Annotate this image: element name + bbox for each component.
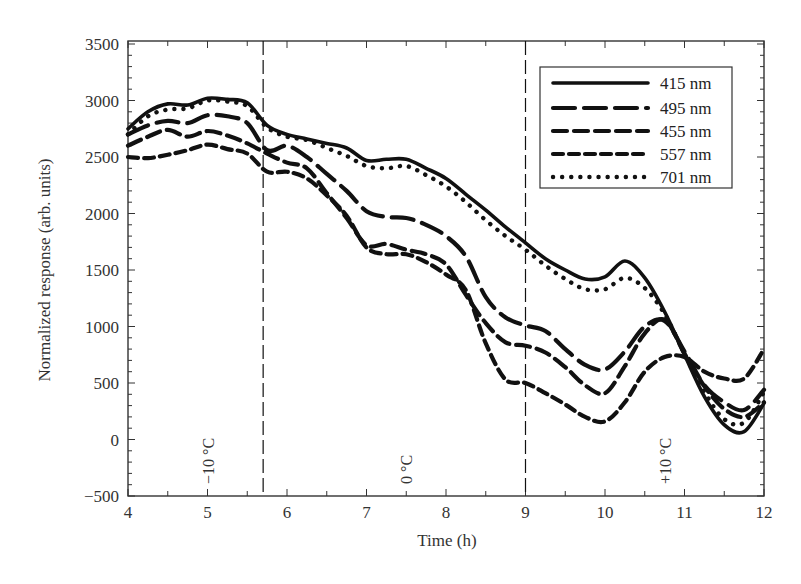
legend-label: 455 nm [660,122,711,141]
x-tick-label: 10 [597,503,614,522]
line-chart: −5000500100015002000250030003500 4567891… [0,0,801,584]
legend: 415 nm495 nm455 nm557 nm701 nm [540,67,732,188]
y-tick-label: 1000 [85,318,119,337]
x-tick-label: 9 [521,503,530,522]
temperature-label: +10 °C [657,438,674,484]
y-tick-label: 500 [94,374,120,393]
x-axis-label: Time (h) [417,531,476,550]
y-tick-label: 2000 [85,205,119,224]
y-tick-label: 3000 [85,92,119,111]
legend-label: 701 nm [660,168,711,187]
x-tick-label: 4 [124,503,133,522]
y-tick-label: 1500 [85,261,119,280]
x-tick-label: 7 [362,503,371,522]
y-tick-label: −500 [84,487,119,506]
x-tick-label: 6 [283,503,292,522]
y-axis-label: Normalized response (arb. units) [35,159,54,382]
legend-label: 415 nm [660,74,711,93]
temperature-annotations: −10 °C0 °C+10 °C [200,438,674,484]
legend-label: 557 nm [660,145,711,164]
legend-label: 495 nm [660,99,711,118]
temperature-label: 0 °C [398,455,415,484]
x-tick-label: 11 [676,503,692,522]
x-tick-label: 5 [203,503,212,522]
x-tick-label: 8 [442,503,451,522]
y-tick-label: 0 [111,431,120,450]
temperature-boundary-lines [263,41,525,496]
y-tick-label: 2500 [85,148,119,167]
temperature-label: −10 °C [200,438,217,484]
y-tick-label: 3500 [85,35,119,54]
x-tick-label: 12 [756,503,773,522]
